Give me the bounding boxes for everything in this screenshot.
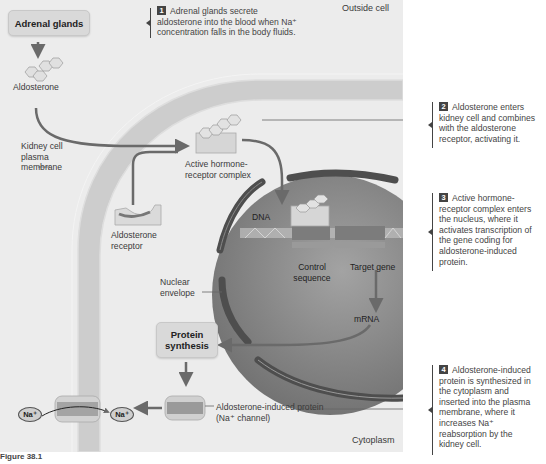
protein-synthesis-line1: Protein (171, 329, 204, 340)
aldosterone-receptor-icon (115, 205, 161, 225)
step-3: 3Active hormone- receptor complex enters… (439, 193, 546, 267)
protein-synthesis-line2: synthesis (165, 340, 209, 351)
nucleus (212, 173, 403, 415)
step-4: 4Aldosterone-induced protein is synthesi… (439, 365, 546, 450)
step3-bracket (432, 193, 433, 271)
step-number-badge: 1 (157, 6, 166, 15)
region-label-cytoplasm: Cytoplasm (352, 435, 395, 446)
label-nuclear-envelope: Nuclear envelope (160, 277, 195, 298)
step4-bracket (432, 365, 433, 455)
na-ion-inside: Na⁺ (110, 407, 134, 422)
active-complex-icon (196, 115, 241, 153)
label-target-gene: Target gene (350, 262, 395, 273)
na-ion-outside: Na⁺ (18, 407, 42, 422)
figure-caption: Figure 38.1 (0, 452, 42, 461)
step-number-badge: 4 (439, 365, 448, 374)
label-active-complex: Active hormone- receptor complex (185, 159, 251, 180)
label-aldosterone: Aldosterone (13, 82, 59, 93)
label-membrane: Kidney cell plasma membrane (21, 141, 63, 173)
diagram-canvas (0, 0, 403, 452)
step-1: 1Adrenal glands secrete aldosterone into… (157, 6, 397, 38)
diagram-panel: Outside cell Cytoplasm Adrenal glands Pr… (0, 0, 403, 452)
label-control-sequence: Control sequence (290, 262, 334, 283)
adrenal-glands-box: Adrenal glands (8, 10, 90, 36)
step-number-badge: 3 (439, 193, 448, 202)
step1-bracket (150, 8, 151, 38)
membrane-na-channel-icon (42, 396, 108, 422)
step2-bracket (432, 102, 433, 148)
label-receptor: Aldosterone receptor (111, 230, 157, 251)
label-mrna: mRNA (354, 314, 379, 325)
label-induced-protein: Aldosterone-induced protein (Na⁺ channel… (216, 402, 324, 423)
aldosterone-molecule-icon (25, 58, 63, 81)
label-dna: DNA (252, 212, 270, 223)
aldosterone-induced-protein-icon (165, 396, 214, 420)
step-number-badge: 2 (439, 102, 448, 111)
step-2: 2Aldosterone enters kidney cell and comb… (439, 102, 546, 144)
protein-synthesis-box: Protein synthesis (156, 322, 218, 358)
